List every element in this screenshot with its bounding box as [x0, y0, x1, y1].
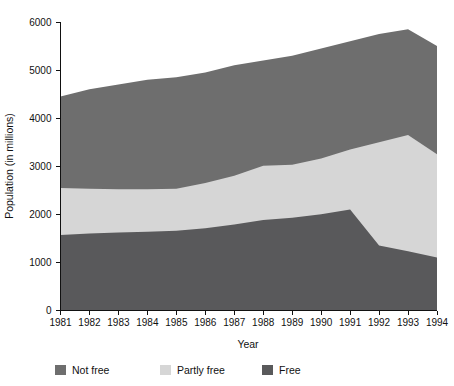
- legend-swatch-partly-free: [160, 365, 171, 375]
- x-tick-label: 1982: [78, 317, 101, 328]
- legend-label-partly-free: Partly free: [177, 364, 225, 376]
- y-axis-ticks: 0100020003000400050006000: [29, 17, 60, 317]
- x-tick-label: 1987: [223, 317, 246, 328]
- x-tick-label: 1983: [107, 317, 130, 328]
- x-tick-label: 1984: [136, 317, 159, 328]
- stacked-area-chart: 0100020003000400050006000 19811982198319…: [0, 0, 454, 386]
- legend-swatch-free: [262, 365, 273, 375]
- chart-container: 0100020003000400050006000 19811982198319…: [0, 0, 454, 386]
- x-tick-label: 1986: [194, 317, 217, 328]
- y-tick-label: 4000: [29, 113, 52, 124]
- x-tick-label: 1985: [165, 317, 188, 328]
- y-tick-label: 3000: [29, 161, 52, 172]
- legend-label-not-free: Not free: [72, 364, 110, 376]
- x-tick-label: 1981: [49, 317, 72, 328]
- x-tick-label: 1988: [252, 317, 275, 328]
- y-tick-label: 2000: [29, 209, 52, 220]
- x-tick-label: 1990: [310, 317, 333, 328]
- y-tick-label: 6000: [29, 17, 52, 28]
- legend-swatch-not-free: [55, 365, 66, 375]
- x-tick-label: 1989: [281, 317, 304, 328]
- y-axis-title: Population (in millions): [3, 113, 15, 219]
- y-tick-label: 5000: [29, 65, 52, 76]
- legend-label-free: Free: [279, 364, 301, 376]
- x-axis-ticks: 1981198219831984198519861987198819891990…: [49, 311, 448, 328]
- x-axis-title: Year: [237, 338, 259, 350]
- x-tick-label: 1994: [426, 317, 449, 328]
- chart-legend: Not freePartly freeFree: [55, 364, 301, 376]
- y-tick-label: 0: [46, 305, 52, 316]
- x-tick-label: 1991: [339, 317, 362, 328]
- chart-areas: [61, 29, 438, 310]
- y-tick-label: 1000: [29, 257, 52, 268]
- x-tick-label: 1992: [368, 317, 391, 328]
- x-tick-label: 1993: [397, 317, 420, 328]
